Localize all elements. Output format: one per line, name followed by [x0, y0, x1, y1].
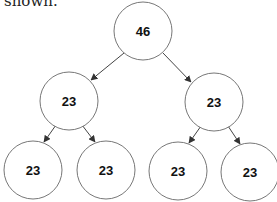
edge-root-right: [163, 53, 191, 82]
edge-right-rightright: [228, 126, 240, 144]
node-value: 46: [136, 24, 150, 39]
tree-node-left: 23: [40, 72, 98, 130]
tree-node-right: 23: [185, 73, 243, 131]
tree-node-right-right: 23: [221, 143, 277, 201]
edge-left-leftleft: [44, 125, 56, 142]
node-value: 23: [26, 163, 40, 178]
tree-node-left-left: 23: [4, 141, 62, 199]
tree-node-right-left: 23: [149, 142, 207, 200]
edge-right-rightleft: [189, 126, 201, 143]
node-value: 23: [99, 163, 113, 178]
tree-node-root: 46: [114, 2, 172, 60]
tree-node-left-right: 23: [77, 141, 135, 199]
binary-tree-diagram: 46 23 23 23 23 23 23: [0, 0, 277, 202]
node-value: 23: [243, 165, 257, 180]
edge-root-left: [91, 53, 124, 80]
edge-left-leftright: [82, 125, 95, 142]
node-value: 23: [207, 95, 221, 110]
node-value: 23: [62, 94, 76, 109]
node-value: 23: [171, 164, 185, 179]
